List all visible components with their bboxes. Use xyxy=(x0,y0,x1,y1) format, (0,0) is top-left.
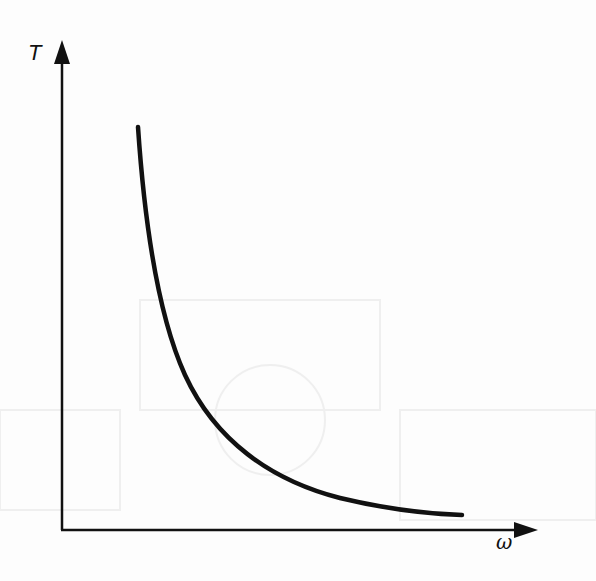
y-axis-arrowhead-icon xyxy=(54,40,70,64)
torque-curve xyxy=(138,127,462,515)
y-axis-label: T xyxy=(28,42,41,64)
x-axis-arrowhead-icon xyxy=(514,522,538,538)
x-axis-label: ω xyxy=(496,532,512,552)
diagram-canvas xyxy=(0,0,596,581)
torque-speed-diagram: T ω xyxy=(0,0,596,581)
